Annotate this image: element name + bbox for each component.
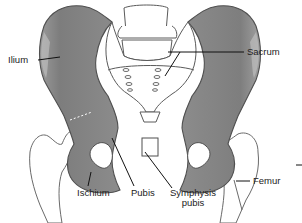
label-symphysis-line2: pubis: [166, 198, 220, 208]
label-ischium: Ischium: [77, 188, 110, 198]
label-pubis: Pubis: [131, 188, 155, 198]
label-femur: Femur: [253, 176, 280, 186]
label-sacrum: Sacrum: [247, 47, 280, 57]
label-ilium: Ilium: [8, 55, 28, 65]
sacrum: [106, 5, 196, 122]
symphysis-leader: [145, 152, 172, 188]
femur-left: [30, 132, 76, 223]
label-symphysis-pubis: Symphysis pubis: [166, 188, 220, 208]
symphysis-pubis: [142, 138, 158, 156]
